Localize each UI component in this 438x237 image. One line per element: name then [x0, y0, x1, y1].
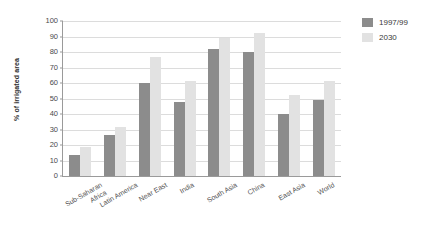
x-axis-labels: Sub-SaharanAfricaLatin AmericaNear EastI… — [62, 178, 340, 236]
x-axis-label: World — [316, 181, 336, 197]
bar-group — [272, 21, 307, 176]
bar-group — [98, 21, 133, 176]
legend-label: 1997/99 — [379, 18, 408, 27]
legend-label: 2030 — [379, 33, 397, 42]
bar[interactable] — [115, 127, 126, 176]
bar[interactable] — [208, 49, 219, 176]
bar[interactable] — [139, 83, 150, 176]
bar-group — [306, 21, 341, 176]
bar[interactable] — [174, 102, 185, 176]
legend: 1997/992030 — [362, 18, 436, 48]
plot-area: 1009080706050403020100 — [62, 21, 341, 177]
y-axis-tick-label: 30 — [50, 126, 63, 134]
bar[interactable] — [69, 155, 80, 176]
bar[interactable] — [150, 57, 161, 176]
x-axis-label-line: East Asia — [277, 181, 306, 202]
bar[interactable] — [219, 38, 230, 176]
x-axis-label: China — [246, 181, 266, 198]
y-axis-tick-label: 90 — [50, 33, 63, 41]
x-axis-label: India — [178, 181, 195, 196]
bar-groups — [63, 21, 341, 176]
x-axis-label-cell: Near East — [132, 178, 167, 236]
x-axis-label-line: India — [178, 181, 195, 195]
x-axis-label-cell: South Asia — [201, 178, 236, 236]
bar-group — [202, 21, 237, 176]
y-axis-tick-label: 10 — [50, 157, 63, 165]
bar[interactable] — [324, 81, 335, 176]
bar[interactable] — [254, 33, 265, 176]
bar[interactable] — [104, 135, 115, 176]
y-axis-tick-label: 50 — [50, 95, 63, 103]
legend-item[interactable]: 2030 — [362, 33, 436, 42]
y-axis-tick-label: 80 — [50, 48, 63, 56]
x-axis-label-cell: India — [166, 178, 201, 236]
bar[interactable] — [185, 81, 196, 176]
bar[interactable] — [80, 147, 91, 176]
legend-item[interactable]: 1997/99 — [362, 18, 436, 27]
x-axis-label-line: China — [246, 181, 265, 196]
x-axis-label-cell: China — [236, 178, 271, 236]
x-axis-label: South Asia — [206, 181, 239, 205]
bar[interactable] — [278, 114, 289, 176]
y-axis-tick-label: 60 — [50, 79, 63, 87]
x-axis-label-line: South Asia — [206, 181, 238, 204]
bar-group — [63, 21, 98, 176]
x-axis-label: Near East — [137, 181, 168, 204]
x-axis-label: East Asia — [277, 181, 307, 203]
x-axis-label-cell: Sub-SaharanAfrica — [62, 178, 97, 236]
bar[interactable] — [289, 95, 300, 176]
bar[interactable] — [313, 100, 324, 176]
y-axis-tick-label: 70 — [50, 64, 63, 72]
x-axis-label-cell: East Asia — [271, 178, 306, 236]
bar-group — [133, 21, 168, 176]
legend-swatch — [362, 18, 373, 27]
bar[interactable] — [243, 52, 254, 176]
y-axis-tick-label: 100 — [45, 17, 63, 25]
y-axis-title-text: % of irrigated area — [13, 58, 20, 121]
x-axis-label-line: Near East — [137, 181, 167, 203]
bar-chart-figure: % of irrigated area 10090807060504030201… — [0, 0, 438, 237]
y-axis-tick-label: 40 — [50, 110, 63, 118]
x-axis-label-line: World — [316, 181, 335, 196]
bar-group — [237, 21, 272, 176]
x-axis-label-cell: World — [305, 178, 340, 236]
y-axis-title: % of irrigated area — [8, 0, 24, 178]
bar-group — [167, 21, 202, 176]
x-axis-label-cell: Latin America — [97, 178, 132, 236]
y-axis-tick-label: 20 — [50, 141, 63, 149]
legend-swatch — [362, 33, 373, 42]
